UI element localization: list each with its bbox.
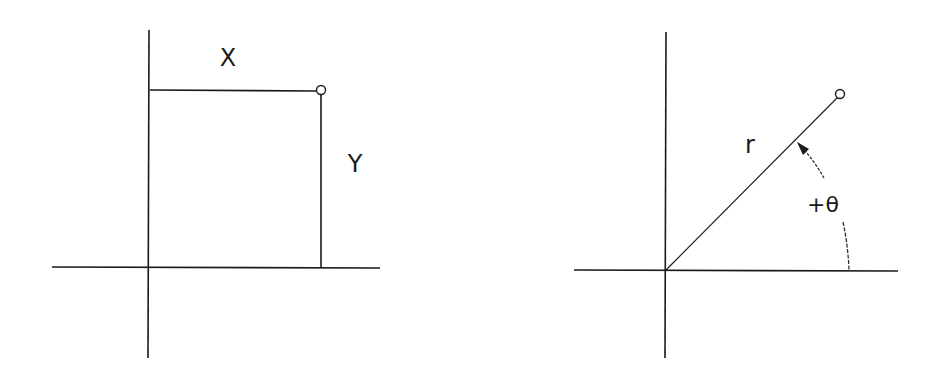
x-label: X — [220, 44, 236, 72]
cartesian-panel: X Y — [52, 30, 380, 358]
y-label: Y — [347, 150, 363, 178]
cartesian-point-marker — [317, 86, 326, 95]
polar-panel: r +θ — [574, 32, 898, 358]
polar-point-marker — [836, 90, 845, 99]
x-distance-line — [150, 90, 316, 91]
cartesian-x-axis — [52, 267, 380, 268]
radius-label: r — [745, 131, 755, 159]
polar-y-axis — [665, 32, 666, 358]
angle-arrow-icon — [797, 142, 824, 178]
angle-label: +θ — [807, 192, 839, 217]
cartesian-y-axis — [148, 30, 149, 358]
coordinate-diagram: X Y r +θ — [0, 0, 944, 380]
angle-arc — [843, 222, 849, 270]
radius-line — [666, 98, 837, 270]
polar-x-axis — [574, 270, 898, 271]
